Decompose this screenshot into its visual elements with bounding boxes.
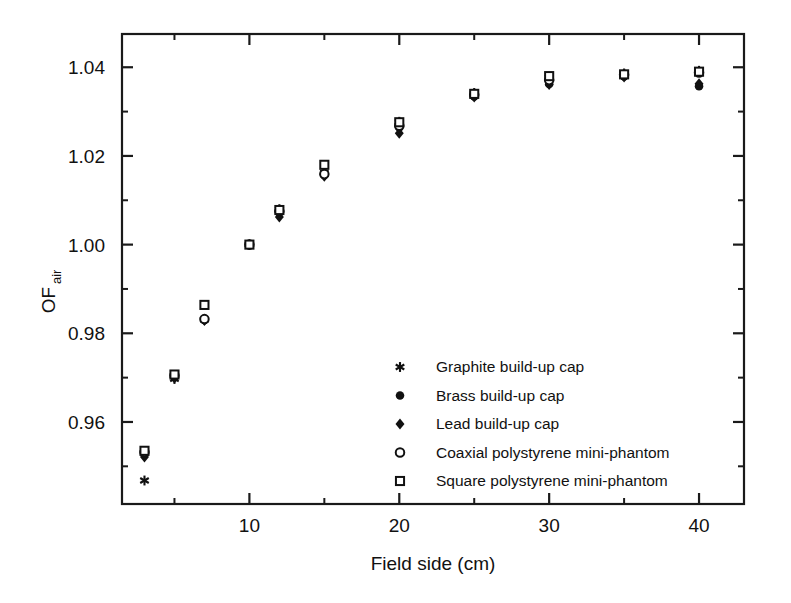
data-point [275, 206, 283, 214]
y-axis-title-group: OF air [38, 269, 64, 313]
x-tick-label: 30 [539, 515, 560, 536]
y-tick-label: 1.00 [68, 235, 105, 256]
y-axis-title: OF [38, 287, 59, 313]
data-point [320, 161, 328, 169]
legend-label: Square polystyrene mini-phantom [436, 472, 668, 489]
y-axis-title-subscript: air [49, 269, 64, 284]
legend-marker-open-square [396, 477, 404, 485]
data-point [200, 301, 208, 309]
x-axis-tick-labels: 10203040 [239, 515, 710, 536]
data-point [140, 476, 149, 486]
data-point [320, 170, 329, 179]
legend-label: Coaxial polystyrene mini-phantom [436, 444, 669, 461]
legend-marker-filled-diamond [396, 419, 405, 430]
y-axis-minor-ticks [122, 112, 744, 467]
data-series [140, 68, 703, 455]
chart-legend: Graphite build-up capBrass build-up capL… [396, 358, 670, 489]
x-tick-label: 20 [389, 515, 410, 536]
legend-entry: Coaxial polystyrene mini-phantom [396, 444, 670, 461]
data-series [140, 66, 703, 486]
x-axis-major-ticks [249, 34, 699, 504]
data-point [620, 70, 628, 78]
chart-canvas: 10203040 0.960.981.001.021.04 Field side… [0, 0, 791, 603]
legend-label: Brass build-up cap [436, 387, 564, 404]
y-tick-label: 0.96 [68, 412, 105, 433]
legend-label: Lead build-up cap [436, 415, 559, 432]
legend-marker-filled-circle [396, 391, 405, 400]
y-tick-label: 0.98 [68, 323, 105, 344]
legend-entry: Lead build-up cap [396, 415, 560, 432]
data-point [140, 447, 148, 455]
data-markers-layer [140, 66, 704, 486]
legend-marker-open-circle [396, 448, 405, 457]
legend-entry: Graphite build-up cap [396, 358, 584, 375]
legend-marker-asterisk [396, 362, 405, 372]
y-axis-tick-labels: 0.960.981.001.021.04 [68, 57, 105, 433]
y-tick-label: 1.02 [68, 146, 105, 167]
chart-figure: 10203040 0.960.981.001.021.04 Field side… [0, 0, 791, 603]
legend-entry: Square polystyrene mini-phantom [396, 472, 668, 489]
data-point [245, 241, 253, 249]
data-point [695, 68, 703, 76]
data-point [200, 315, 209, 324]
legend-entry: Brass build-up cap [396, 387, 565, 404]
x-axis-title: Field side (cm) [371, 553, 496, 574]
data-point [545, 72, 553, 80]
data-point [395, 118, 403, 126]
y-tick-label: 1.04 [68, 57, 105, 78]
plot-frame [122, 34, 744, 504]
x-axis-minor-ticks [174, 34, 624, 504]
data-series [140, 72, 704, 463]
legend-label: Graphite build-up cap [436, 358, 584, 375]
data-series [140, 68, 703, 456]
data-point [470, 90, 478, 98]
y-axis-major-ticks [122, 67, 744, 422]
x-tick-label: 10 [239, 515, 260, 536]
data-point [170, 370, 178, 378]
x-tick-label: 40 [688, 515, 709, 536]
data-series [140, 72, 703, 458]
